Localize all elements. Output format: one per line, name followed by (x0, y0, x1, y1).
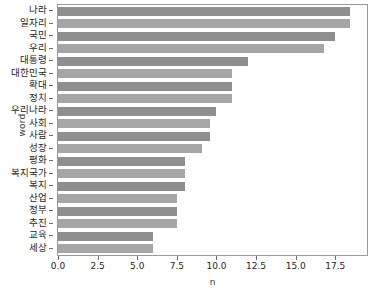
x-axis-tick-label: 7.5 (170, 261, 184, 271)
bar-row (58, 132, 367, 141)
y-axis-tick-labels: 나라일자리국민우리대통령대한민국확대정치우리나라사회사람성장평화복지국가복지산업… (0, 4, 53, 256)
bar (58, 232, 153, 241)
y-axis-tick-label: 추진 (29, 218, 47, 228)
y-axis-tick-mark (49, 60, 53, 61)
bar (58, 7, 350, 16)
bar (58, 69, 232, 78)
bar-row (58, 57, 367, 66)
y-axis-tick-mark (49, 173, 53, 174)
y-axis-tick-mark (49, 210, 53, 211)
x-axis-tick-label: 17.5 (325, 261, 345, 271)
y-axis-tick-label: 확대 (29, 80, 47, 90)
y-axis-tick-label: 세상 (29, 243, 47, 253)
bar (58, 107, 216, 116)
bar-row (58, 107, 367, 116)
bar-row (58, 232, 367, 241)
bar-row (58, 157, 367, 166)
x-axis-tick-mark (58, 256, 59, 260)
y-axis-tick-mark (49, 198, 53, 199)
y-axis-tick-mark (49, 35, 53, 36)
y-axis-tick-label: 국민 (29, 30, 47, 40)
bar (58, 219, 177, 228)
y-axis-tick-label: 성장 (29, 143, 47, 153)
x-axis-tick-mark (137, 256, 138, 260)
y-axis-tick-label: 사람 (29, 130, 47, 140)
bar (58, 182, 185, 191)
y-axis-tick-label: 복지 (29, 180, 47, 190)
y-axis-tick-mark (49, 98, 53, 99)
y-axis-tick-label: 정부 (29, 205, 47, 215)
bar (58, 207, 177, 216)
bar-row (58, 207, 367, 216)
bar (58, 82, 232, 91)
bar-row (58, 32, 367, 41)
bar-row (58, 19, 367, 28)
plot-area (57, 4, 368, 256)
bar-series (58, 5, 367, 255)
x-axis-tick-labels: 0.02.55.07.510.012.515.017.5 (57, 256, 368, 276)
y-axis-tick-mark (49, 248, 53, 249)
x-axis-tick-mark (98, 256, 99, 260)
x-axis-tick-label: 12.5 (246, 261, 266, 271)
y-axis-tick-mark (49, 123, 53, 124)
y-axis-tick-label: 일자리 (20, 18, 47, 28)
bar (58, 32, 335, 41)
y-axis-tick-mark (49, 110, 53, 111)
bar-row (58, 69, 367, 78)
bar (58, 244, 153, 253)
x-axis-tick-label: 10.0 (206, 261, 226, 271)
y-axis-tick-label: 교육 (29, 230, 47, 240)
x-axis-tick-label: 15.0 (286, 261, 306, 271)
bar-row (58, 7, 367, 16)
y-axis-tick-label: 우리나라 (11, 105, 47, 115)
y-axis-tick-mark (49, 148, 53, 149)
bar (58, 169, 185, 178)
x-axis-tick-label: 5.0 (130, 261, 144, 271)
x-axis-tick-label: 2.5 (90, 261, 104, 271)
bar-row (58, 169, 367, 178)
bar (58, 44, 324, 53)
y-axis-tick-mark (49, 223, 53, 224)
bar-row (58, 219, 367, 228)
bar-row (58, 194, 367, 203)
x-axis-tick-mark (256, 256, 257, 260)
bar-row (58, 44, 367, 53)
bar-row (58, 182, 367, 191)
x-axis-tick-label: 0.0 (51, 261, 65, 271)
bar-row (58, 244, 367, 253)
y-axis-tick-label: 산업 (29, 193, 47, 203)
bar (58, 57, 248, 66)
y-axis-tick-label: 복지국가 (11, 168, 47, 178)
bar (58, 94, 232, 103)
y-axis-tick-mark (49, 235, 53, 236)
y-axis-tick-mark (49, 160, 53, 161)
y-axis-tick-mark (49, 23, 53, 24)
y-axis-tick-mark (49, 10, 53, 11)
bar-row (58, 119, 367, 128)
bar-row (58, 144, 367, 153)
y-axis-tick-label: 대통령 (20, 55, 47, 65)
y-axis-tick-label: 나라 (29, 5, 47, 15)
bar (58, 157, 185, 166)
bar-row (58, 94, 367, 103)
bar (58, 132, 210, 141)
bar (58, 19, 350, 28)
bar-chart: word 나라일자리국민우리대통령대한민국확대정치우리나라사회사람성장평화복지국… (0, 0, 383, 298)
y-axis-tick-label: 사회 (29, 118, 47, 128)
y-axis-tick-mark (49, 48, 53, 49)
y-axis-tick-label: 정치 (29, 93, 47, 103)
x-axis-tick-mark (296, 256, 297, 260)
x-axis-tick-mark (216, 256, 217, 260)
y-axis-tick-label: 평화 (29, 155, 47, 165)
x-axis-title: n (57, 277, 368, 287)
y-axis-tick-mark (49, 73, 53, 74)
y-axis-tick-label: 대한민국 (11, 68, 47, 78)
bar-row (58, 82, 367, 91)
x-axis-tick-mark (177, 256, 178, 260)
bar (58, 194, 177, 203)
y-axis-tick-label: 우리 (29, 43, 47, 53)
x-axis-tick-mark (335, 256, 336, 260)
y-axis-tick-mark (49, 135, 53, 136)
y-axis-tick-mark (49, 85, 53, 86)
y-axis-tick-mark (49, 185, 53, 186)
